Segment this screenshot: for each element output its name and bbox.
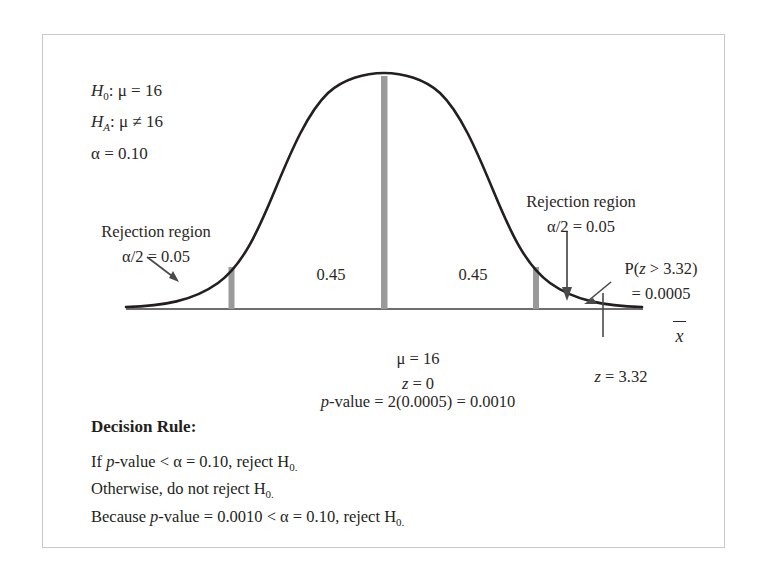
x-bar-variable: x (676, 326, 684, 346)
figure-panel: H0: μ = 16 HA: μ ≠ 16 α = 0.10 (42, 34, 725, 548)
left-area-label: 0.45 (301, 263, 361, 288)
right-rejection-region-value: α/2 = 0.05 (486, 215, 676, 240)
probability-prefix: P( (624, 259, 639, 278)
decision-rule-line-3: Because p-value = 0.0010 < α = 0.10, rej… (91, 504, 404, 531)
center-mean-marker (381, 76, 388, 309)
left-rejection-region-value: α/2 = 0.05 (61, 245, 251, 270)
left-rejection-region-title: Rejection region (61, 220, 251, 245)
decision-rule-heading: Decision Rule: (91, 417, 404, 437)
probability-value: = 0.0005 (586, 282, 736, 307)
right-area-label: 0.45 (443, 263, 503, 288)
right-region-arrow (562, 231, 572, 301)
decision-rule-line-1: If p-value < α = 0.10, reject H0. (91, 449, 404, 476)
probability-expression: P(z > 3.32) (586, 257, 736, 282)
x-bar-axis-label: x (673, 321, 686, 350)
right-rejection-region-label: Rejection region α/2 = 0.05 (486, 190, 676, 240)
p-value-text: -value = 2(0.0005) = 0.0010 (329, 392, 515, 411)
probability-annotation: P(z > 3.32) = 0.0005 (586, 257, 736, 307)
p-value-symbol: p (321, 392, 329, 411)
observed-z-label: z = 3.32 (561, 365, 681, 390)
decision-rule-block: Decision Rule: If p-value < α = 0.10, re… (91, 417, 404, 531)
probability-suffix: > 3.32) (646, 259, 698, 278)
p-value-line: p-value = 2(0.0005) = 0.0010 (193, 390, 643, 415)
decision-rule-line-2: Otherwise, do not reject H0. (91, 476, 404, 503)
right-rejection-region-title: Rejection region (486, 190, 676, 215)
mean-label: μ = 16 (308, 347, 528, 372)
left-rejection-region-label: Rejection region α/2 = 0.05 (61, 220, 251, 270)
